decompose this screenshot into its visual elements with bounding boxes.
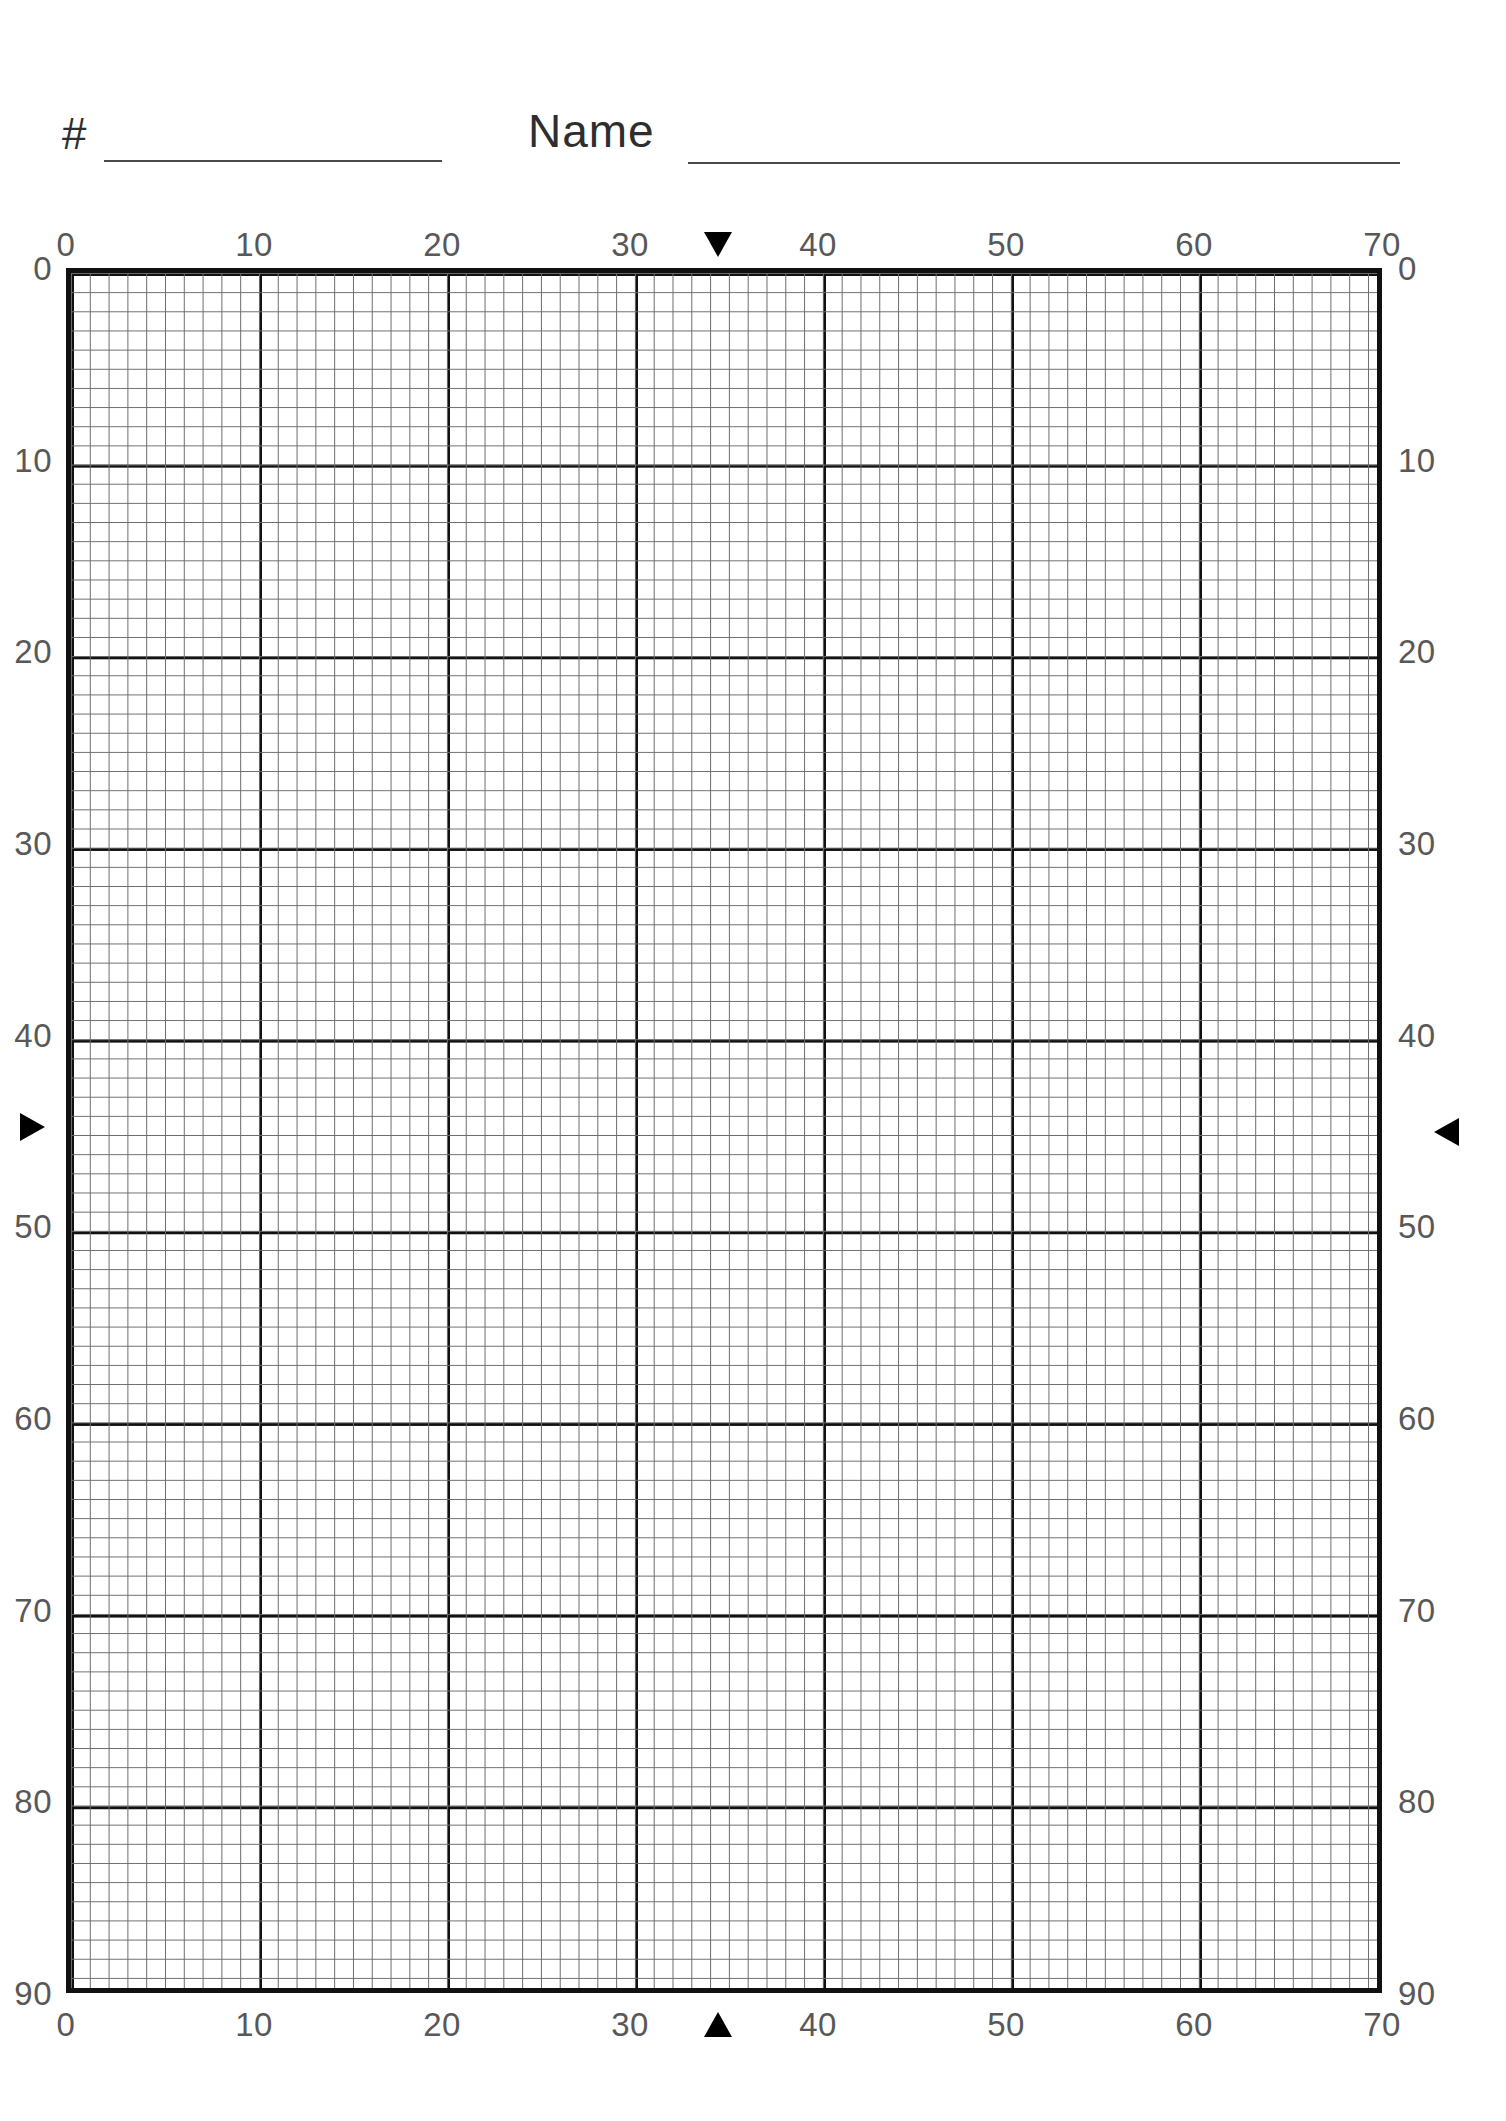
left-tick-label: 10: [14, 443, 52, 476]
right-tick-label: 20: [1398, 635, 1436, 668]
left-tick-label: 30: [14, 827, 52, 860]
left-tick-label: 50: [14, 1210, 52, 1243]
right-tick-label: 60: [1398, 1402, 1436, 1435]
top-tick-label: 50: [987, 228, 1025, 261]
right-tick-label: 30: [1398, 827, 1436, 860]
right-tick-label: 40: [1398, 1018, 1436, 1051]
right-tick-label: 90: [1398, 1977, 1436, 2010]
top-tick-label: 60: [1175, 228, 1213, 261]
top-tick-label: 10: [235, 228, 273, 261]
triangle-down-icon: [704, 232, 732, 257]
right-tick-label: 0: [1398, 252, 1417, 285]
bottom-tick-label: 60: [1175, 2008, 1213, 2041]
triangle-right-icon: [20, 1113, 45, 1141]
top-tick-label: 20: [423, 228, 461, 261]
top-tick-label: 40: [799, 228, 837, 261]
bottom-tick-label: 0: [57, 2008, 76, 2041]
triangle-left-icon: [1434, 1118, 1459, 1146]
top-tick-label: 30: [611, 228, 649, 261]
graph-paper-area: 010203040506070 010203040506070 01020304…: [0, 0, 1506, 2121]
right-tick-label: 70: [1398, 1593, 1436, 1626]
right-tick-label: 80: [1398, 1785, 1436, 1818]
top-tick-label: 70: [1363, 228, 1401, 261]
left-tick-label: 80: [14, 1785, 52, 1818]
left-tick-label: 70: [14, 1593, 52, 1626]
left-tick-label: 20: [14, 635, 52, 668]
left-tick-label: 60: [14, 1402, 52, 1435]
bottom-tick-label: 70: [1363, 2008, 1401, 2041]
bottom-tick-label: 30: [611, 2008, 649, 2041]
left-tick-label: 40: [14, 1018, 52, 1051]
graph-grid[interactable]: [66, 268, 1382, 1993]
top-tick-label: 0: [57, 228, 76, 261]
bottom-tick-label: 40: [799, 2008, 837, 2041]
bottom-tick-label: 20: [423, 2008, 461, 2041]
bottom-tick-label: 10: [235, 2008, 273, 2041]
left-tick-label: 0: [33, 252, 52, 285]
right-tick-label: 10: [1398, 443, 1436, 476]
right-tick-label: 50: [1398, 1210, 1436, 1243]
triangle-up-icon: [704, 2012, 732, 2037]
bottom-tick-label: 50: [987, 2008, 1025, 2041]
left-tick-label: 90: [14, 1977, 52, 2010]
